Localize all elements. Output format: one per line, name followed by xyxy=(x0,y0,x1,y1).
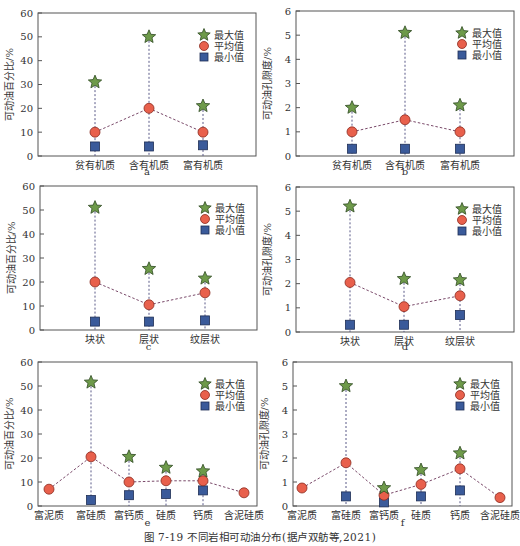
legend-label: 平均值 xyxy=(215,389,245,401)
y-tick-label: 50 xyxy=(20,31,33,42)
mean-circle-marker xyxy=(144,300,154,310)
legend: 最大值平均值最小值 xyxy=(199,202,245,237)
x-tick-label: 含泥硅质 xyxy=(224,509,264,521)
mean-circle-marker xyxy=(455,464,465,474)
chart-panel-e: 0102030405060可动油百分比/%富泥质富硅质富钙质硅质钙质含泥硅质e最… xyxy=(3,357,264,529)
y-tick-label: 4 xyxy=(285,54,291,65)
mean-circle-marker xyxy=(341,458,351,468)
figure: 0102030405060可动油百分比/%贫有机质含有机质富有机质a最大值平均值… xyxy=(0,0,520,546)
max-star-icon xyxy=(142,30,155,43)
mean-circle-marker xyxy=(239,488,249,498)
min-square-icon xyxy=(456,402,464,410)
min-square-icon xyxy=(200,53,208,61)
y-tick-label: 10 xyxy=(20,477,33,488)
mean-circle-marker xyxy=(161,476,171,486)
mean-circle-icon xyxy=(456,391,465,400)
y-tick-label: 20 xyxy=(20,103,33,114)
y-axis-label: 可动油百分比/% xyxy=(3,398,15,471)
y-axis-label: 可动油孔隙度/% xyxy=(261,47,273,120)
legend: 最大值平均值最小值 xyxy=(199,378,245,413)
max-star-icon xyxy=(343,199,356,212)
chart-panel-b: 0123456可动油孔隙度/%贫有机质含有机质富有机质b最大值平均值最小值 xyxy=(261,6,514,178)
y-tick-label: 60 xyxy=(20,8,33,19)
y-tick-label: 4 xyxy=(282,405,288,416)
x-tick-label: 贫有机质 xyxy=(75,159,115,171)
min-square-marker xyxy=(199,141,208,150)
legend-label: 最小值 xyxy=(472,225,502,237)
y-tick-label: 0 xyxy=(29,325,35,336)
chart-panel-c: 0102030405060可动油百分比/%块状层状纹层状c最大值平均值最小值 xyxy=(5,181,257,353)
x-tick-label: 钙质 xyxy=(450,509,470,521)
legend-label: 最大值 xyxy=(472,203,502,215)
y-tick-label: 1 xyxy=(282,477,288,488)
min-square-marker xyxy=(162,490,171,499)
y-tick-label: 0 xyxy=(27,501,33,512)
y-tick-label: 1 xyxy=(285,302,291,313)
min-square-marker xyxy=(91,142,100,151)
chart-panel-f: 0123456可动油孔隙度/%富泥质富硅质富钙质硅质钙质含泥硅质f最大值平均值最… xyxy=(258,357,520,529)
min-square-icon xyxy=(201,226,209,234)
max-star-icon xyxy=(456,27,468,39)
y-tick-label: 3 xyxy=(282,429,288,440)
mean-circle-marker xyxy=(495,493,505,503)
y-tick-label: 2 xyxy=(285,102,291,113)
legend-label: 平均值 xyxy=(472,38,502,50)
min-square-marker xyxy=(456,486,465,495)
legend-label: 最小值 xyxy=(472,49,502,61)
panel-label: f xyxy=(401,517,406,528)
legend-label: 平均值 xyxy=(214,40,244,52)
panel-label: c xyxy=(146,341,152,352)
max-star-icon xyxy=(88,201,101,214)
y-tick-label: 0 xyxy=(285,151,291,162)
legend: 最大值平均值最小值 xyxy=(454,378,500,413)
mean-circle-icon xyxy=(458,40,467,49)
x-tick-label: 块状 xyxy=(340,335,360,347)
max-star-icon xyxy=(198,271,211,284)
min-square-marker xyxy=(125,491,134,500)
max-star-icon xyxy=(159,461,172,474)
x-tick-label: 富有机质 xyxy=(440,159,480,171)
legend-label: 最大值 xyxy=(215,202,245,214)
x-tick-label: 富硅质 xyxy=(76,509,106,521)
mean-circle-marker xyxy=(416,479,426,489)
y-axis-label: 可动油百分比/% xyxy=(3,48,15,121)
legend: 最大值平均值最小值 xyxy=(198,29,244,64)
y-tick-label: 50 xyxy=(20,381,33,392)
y-tick-label: 40 xyxy=(20,405,33,416)
y-tick-label: 10 xyxy=(20,127,33,138)
max-star-icon xyxy=(414,463,427,476)
mean-circle-marker xyxy=(347,127,357,137)
legend-label: 最大值 xyxy=(470,378,500,390)
mean-circle-icon xyxy=(458,216,467,225)
mean-circle-marker xyxy=(200,288,210,298)
mean-circle-marker xyxy=(345,277,355,287)
y-tick-label: 30 xyxy=(20,429,33,440)
x-tick-label: 纹层状 xyxy=(190,333,220,345)
y-tick-label: 3 xyxy=(285,78,291,89)
x-tick-label: 富有机质 xyxy=(183,159,223,171)
x-tick-label: 块状 xyxy=(85,333,105,345)
legend-label: 最小值 xyxy=(214,51,244,63)
legend-label: 平均值 xyxy=(472,214,502,226)
y-tick-label: 5 xyxy=(285,30,291,41)
mean-circle-marker xyxy=(455,291,465,301)
min-square-marker xyxy=(401,144,410,153)
y-tick-label: 10 xyxy=(22,301,35,312)
mean-circle-marker xyxy=(124,477,134,487)
panel-label: d xyxy=(402,341,409,352)
min-square-marker xyxy=(456,311,465,320)
y-tick-label: 30 xyxy=(20,79,33,90)
max-star-icon xyxy=(199,378,211,390)
y-tick-label: 20 xyxy=(20,453,33,464)
mean-circle-marker xyxy=(297,483,307,493)
y-tick-label: 3 xyxy=(285,254,291,265)
mean-circle-marker xyxy=(399,302,409,312)
min-square-marker xyxy=(400,320,409,329)
y-tick-label: 0 xyxy=(27,151,33,162)
max-star-icon xyxy=(339,379,352,392)
min-square-marker xyxy=(199,486,208,495)
y-tick-label: 5 xyxy=(285,206,291,217)
max-star-icon xyxy=(397,272,410,285)
max-star-icon xyxy=(198,29,210,41)
y-axis-label: 可动油百分比/% xyxy=(5,222,17,295)
